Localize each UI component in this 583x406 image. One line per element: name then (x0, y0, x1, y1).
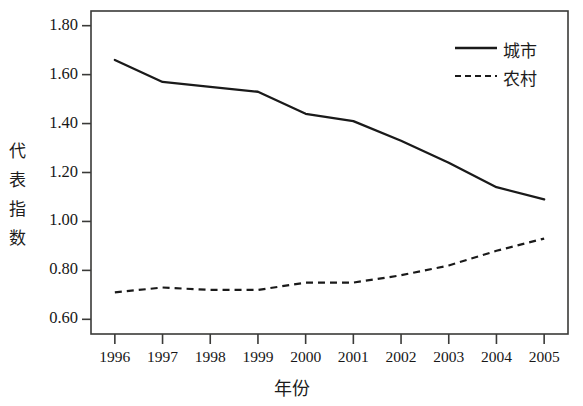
y-axis-tick-label: 1.40 (22, 113, 78, 133)
legend-label-urban: 城市 (503, 37, 537, 62)
x-axis-ticks (115, 334, 544, 344)
y-axis-tick-label: 1.20 (22, 162, 78, 182)
plot-frame (91, 11, 568, 334)
y-axis-ticks (82, 26, 91, 320)
representation-index-line-chart: 代 表 指 数 0.600.801.001.201.401.601.80 199… (0, 0, 583, 406)
x-axis-tick-label: 2005 (516, 348, 572, 366)
y-axis-tick-label: 1.60 (22, 64, 78, 84)
plot-area (0, 0, 583, 406)
y-axis-tick-label: 1.80 (22, 15, 78, 35)
y-axis-tick-label: 1.00 (22, 210, 78, 230)
x-axis-title: 年份 (0, 374, 583, 400)
y-axis-tick-label: 0.60 (22, 308, 78, 328)
y-axis-title-text: 代 表 指 数 (9, 142, 26, 248)
legend-label-rural: 农村 (503, 65, 537, 90)
y-axis-tick-label: 0.80 (22, 259, 78, 279)
